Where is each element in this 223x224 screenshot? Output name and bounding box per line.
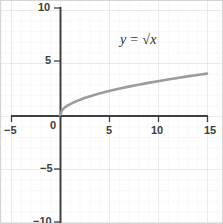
x-tick-label-neg5: −5 — [4, 125, 17, 136]
square-root-function-chart: −5 0 5 10 15 10 5 −5 −10 y = √x — [0, 0, 223, 224]
x-tick-label-10: 10 — [151, 125, 163, 136]
equation-variable: x — [150, 32, 157, 47]
grid-major — [1, 1, 222, 223]
chart-plot-area — [0, 0, 223, 224]
x-tick-label-15: 15 — [204, 125, 216, 136]
equation-operator: = — [130, 32, 138, 47]
y-tick-label-5: 5 — [45, 55, 51, 66]
x-tick-label-0: 0 — [50, 120, 56, 131]
y-tick-label-neg5: −5 — [40, 163, 53, 174]
x-tick-label-5: 5 — [106, 125, 112, 136]
y-tick-label-neg10: −10 — [33, 216, 52, 224]
equation-lhs: y — [120, 32, 127, 47]
equation-annotation: y = √x — [120, 33, 157, 47]
y-tick-label-10: 10 — [38, 2, 50, 13]
